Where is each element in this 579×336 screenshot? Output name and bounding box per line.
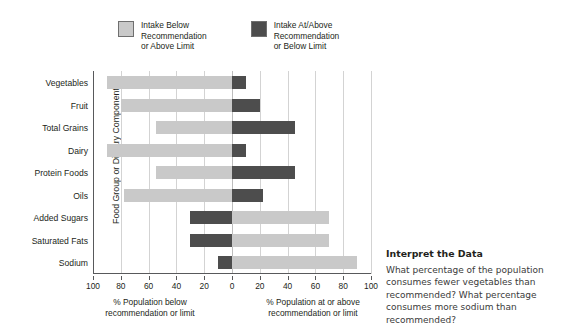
x-tick <box>176 276 177 280</box>
x-axis-title-left: % Population below recommendation or lim… <box>75 297 225 319</box>
x-tick <box>371 276 372 280</box>
legend-label-intake-below: Intake Below Recommendation or Above Lim… <box>141 20 207 52</box>
bar-right-total-grains <box>232 121 295 134</box>
x-tick-label: 100 <box>78 281 108 291</box>
bar-left-oils <box>124 189 232 202</box>
category-label-saturated-fats: Saturated Fats <box>0 230 88 253</box>
bar-row: Added Sugars <box>93 207 371 230</box>
chart-page: Intake Below Recommendation or Above Lim… <box>0 0 579 336</box>
category-label-added-sugars: Added Sugars <box>0 207 88 230</box>
x-tick-label: 80 <box>328 281 358 291</box>
x-tick <box>260 276 261 280</box>
bar-row: Protein Foods <box>93 162 371 185</box>
x-tick-label: 20 <box>189 281 219 291</box>
interpret-the-data-box: Interpret the Data What percentage of th… <box>386 248 572 326</box>
bar-right-protein-foods <box>232 166 295 179</box>
bar-row: Total Grains <box>93 117 371 140</box>
bar-right-fruit <box>232 99 260 112</box>
category-label-dairy: Dairy <box>0 140 88 163</box>
legend-label-intake-at-above: Intake At/Above Recommendation or Below … <box>274 20 340 52</box>
bar-left-added-sugars <box>190 211 232 224</box>
bar-right-sodium <box>232 256 357 269</box>
category-label-total-grains: Total Grains <box>0 117 88 140</box>
category-label-vegetables: Vegetables <box>0 72 88 95</box>
x-tick-label: 100 <box>356 281 386 291</box>
bar-left-total-grains <box>156 121 232 134</box>
legend-item-intake-at-above: Intake At/Above Recommendation or Below … <box>251 20 340 52</box>
chart-legend: Intake Below Recommendation or Above Lim… <box>118 20 339 52</box>
bar-row: Vegetables <box>93 72 371 95</box>
bar-left-protein-foods <box>156 166 232 179</box>
x-tick <box>204 276 205 280</box>
bar-left-fruit <box>121 99 232 112</box>
x-tick <box>232 276 233 280</box>
category-label-sodium: Sodium <box>0 252 88 275</box>
interpret-title: Interpret the Data <box>386 248 572 259</box>
bar-left-vegetables <box>107 76 232 89</box>
x-tick <box>93 276 94 280</box>
x-tick-label: 0 <box>217 281 247 291</box>
bar-right-oils <box>232 189 263 202</box>
x-tick <box>343 276 344 280</box>
x-tick-label: 60 <box>134 281 164 291</box>
x-axis-title-right: % Population at or above recommendation … <box>233 297 393 319</box>
x-tick <box>315 276 316 280</box>
bar-left-dairy <box>107 144 232 157</box>
interpret-body: What percentage of the population consum… <box>386 264 572 326</box>
legend-swatch-light <box>118 21 134 37</box>
bar-row: Oils <box>93 185 371 208</box>
x-tick-label: 20 <box>245 281 275 291</box>
bar-left-sodium <box>218 256 232 269</box>
bar-row: Dairy <box>93 140 371 163</box>
bar-right-dairy <box>232 144 246 157</box>
bar-row: Sodium <box>93 252 371 275</box>
x-tick <box>288 276 289 280</box>
bar-right-added-sugars <box>232 211 329 224</box>
x-tick-label: 80 <box>106 281 136 291</box>
x-tick-label: 40 <box>273 281 303 291</box>
gridline <box>371 71 372 274</box>
bar-right-saturated-fats <box>232 234 329 247</box>
category-label-protein-foods: Protein Foods <box>0 162 88 185</box>
x-tick <box>149 276 150 280</box>
plot-area: Food Group or Diarary Component Vegetabl… <box>93 71 371 274</box>
x-tick-label: 60 <box>300 281 330 291</box>
x-tick <box>121 276 122 280</box>
x-tick-label: 40 <box>161 281 191 291</box>
legend-item-intake-below: Intake Below Recommendation or Above Lim… <box>118 20 207 52</box>
category-label-fruit: Fruit <box>0 95 88 118</box>
legend-swatch-dark <box>251 21 267 37</box>
bar-row: Fruit <box>93 95 371 118</box>
category-label-oils: Oils <box>0 185 88 208</box>
bar-right-vegetables <box>232 76 246 89</box>
bar-left-saturated-fats <box>190 234 232 247</box>
x-axis-line <box>93 273 371 274</box>
bar-row: Saturated Fats <box>93 230 371 253</box>
y-axis-line <box>93 71 94 274</box>
